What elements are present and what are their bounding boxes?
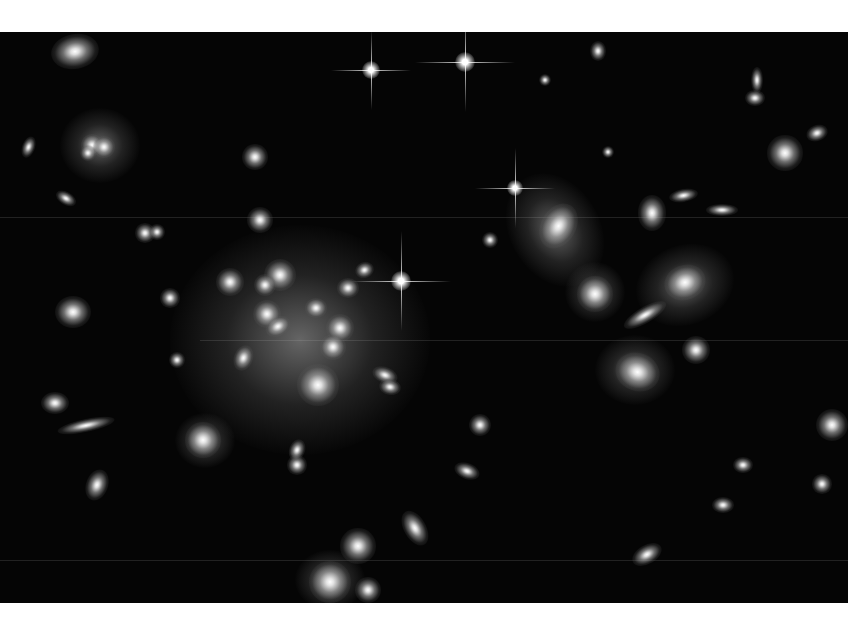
galaxy [682,336,711,365]
galaxy [602,146,615,159]
galaxy [712,497,734,513]
galaxy [340,528,375,563]
detector-streak [0,217,848,218]
galaxy [55,296,90,328]
galaxy [745,90,764,106]
galaxy [628,539,665,572]
galaxy [812,474,831,493]
galaxy [53,187,79,209]
galaxy [816,409,848,441]
galaxy [242,144,268,170]
galaxy [590,41,606,60]
galaxy [149,224,165,240]
galaxy [452,459,482,483]
galaxy [539,74,552,87]
galaxy-cluster-image [0,32,848,603]
galaxy [638,195,667,230]
detector-streak [0,560,848,561]
galaxy [804,122,831,145]
galaxy [247,207,273,233]
galaxy [355,577,381,603]
galaxy [706,204,738,217]
galaxy [216,268,245,297]
galaxy [767,135,802,170]
galaxy [469,414,491,436]
galaxy [80,145,96,161]
galaxy [56,413,115,437]
galaxy [81,466,113,504]
galaxy [320,334,346,360]
galaxy [41,392,70,414]
galaxy [169,352,185,368]
galaxy [48,32,101,73]
galaxy [733,457,752,473]
galaxy [297,364,339,406]
galaxy [18,134,38,159]
galaxy [482,232,498,248]
galaxy [309,561,351,603]
galaxy [751,67,764,93]
detector-streak [200,340,848,341]
galaxy [396,506,435,550]
galaxy [668,186,699,204]
